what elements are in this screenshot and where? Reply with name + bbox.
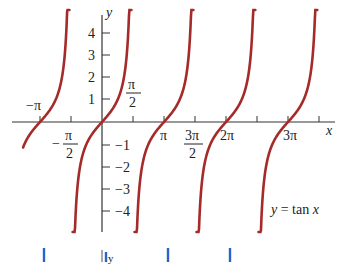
bottom-y-label: y	[108, 252, 114, 264]
y-tick-4: 4	[88, 26, 95, 41]
svg-text:π: π	[65, 128, 72, 143]
x-tick-3pi: 3π	[283, 128, 297, 143]
x-tick-neg-pi: −π	[26, 98, 41, 113]
y-tick-3: 3	[88, 48, 95, 63]
tan-branch	[259, 10, 318, 232]
svg-text:2: 2	[66, 146, 73, 161]
svg-text:2: 2	[129, 95, 136, 110]
bottom-partial-figure	[44, 248, 230, 262]
x-tick-neg-pi-over-2: − π 2	[52, 128, 78, 161]
svg-text:2: 2	[189, 146, 196, 161]
x-axis-label: x	[325, 123, 333, 138]
y-tick-m2: −2	[115, 160, 130, 175]
tan-branch	[135, 10, 194, 232]
tan-branch	[197, 10, 256, 232]
tan-graph: y x 4 3 2 1 −1 −2 −3 −4 −π π 2π 3π π 2 −…	[0, 0, 350, 270]
tan-curves	[23, 10, 317, 232]
y-tick-1: 1	[88, 92, 95, 107]
x-ticks	[40, 116, 319, 122]
y-tick-m3: −3	[115, 182, 130, 197]
function-label: y = tan x	[269, 202, 320, 217]
y-axis-label: y	[104, 5, 113, 20]
y-tick-m4: −4	[115, 204, 130, 219]
svg-text:−: −	[52, 136, 60, 151]
x-tick-3pi-over-2: 3π 2	[184, 128, 203, 161]
x-tick-pi-over-2: π 2	[126, 77, 141, 110]
y-tick-2: 2	[88, 70, 95, 85]
tan-branch	[23, 10, 69, 147]
y-tick-m1: −1	[115, 138, 130, 153]
svg-text:π: π	[128, 77, 135, 92]
x-tick-2pi: 2π	[220, 128, 234, 143]
svg-text:3π: 3π	[185, 128, 199, 143]
x-tick-pi: π	[160, 128, 167, 143]
